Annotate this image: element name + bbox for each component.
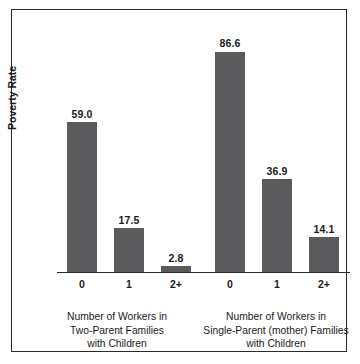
x-tick-label: 1 <box>257 278 297 290</box>
caption-line: Two-Parent Families <box>42 324 192 338</box>
caption-line: Number of Workers in <box>190 310 360 324</box>
x-tick-label: 1 <box>109 278 149 290</box>
bar <box>114 228 144 273</box>
x-tick-label: 2+ <box>304 278 344 290</box>
plot-area: 59.0 17.5 2.8 86.6 36.9 14.1 <box>57 30 350 273</box>
x-tick-label: 0 <box>210 278 250 290</box>
bar-value-label: 2.8 <box>156 252 196 264</box>
poverty-rate-bar-chart: Poverty Rate 59.0 17.5 2.8 86.6 36.9 14.… <box>0 0 360 364</box>
bar-value-label: 14.1 <box>304 223 344 235</box>
chart-frame-border: Poverty Rate 59.0 17.5 2.8 86.6 36.9 14.… <box>11 9 347 352</box>
x-axis-baseline <box>57 272 350 273</box>
bar <box>262 179 292 273</box>
bar <box>67 122 97 273</box>
bar-value-label: 59.0 <box>62 108 102 120</box>
x-tick-label: 0 <box>62 278 102 290</box>
bar <box>309 237 339 273</box>
group-caption-single-parent: Number of Workers in Single-Parent (moth… <box>190 310 360 351</box>
bar-value-label: 86.6 <box>210 37 250 49</box>
x-tick-label: 2+ <box>156 278 196 290</box>
caption-line: Single-Parent (mother) Families <box>190 324 360 338</box>
caption-line: with Children <box>190 337 360 351</box>
group-caption-two-parent: Number of Workers in Two-Parent Families… <box>42 310 192 351</box>
bar <box>215 52 245 274</box>
caption-line: with Children <box>42 337 192 351</box>
bar-value-label: 17.5 <box>109 214 149 226</box>
caption-line: Number of Workers in <box>42 310 192 324</box>
bar-value-label: 36.9 <box>257 165 297 177</box>
y-axis-label: Poverty Rate <box>6 20 18 130</box>
